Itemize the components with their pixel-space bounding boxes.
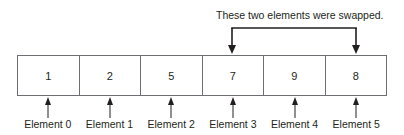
cell-value: 8 (353, 70, 359, 82)
array-cell-3: 7 (203, 56, 265, 95)
up-arrow-icon (351, 97, 361, 118)
array-cell-5: 8 (326, 56, 387, 95)
up-arrow-icon (228, 97, 238, 118)
up-arrow-icon (166, 97, 176, 118)
up-arrow-icon (290, 97, 300, 118)
element-label-text: Element 1 (79, 118, 141, 130)
array-cell-4: 9 (264, 56, 326, 95)
element-label-2: Element 2 (140, 97, 202, 135)
element-label-text: Element 4 (264, 118, 326, 130)
array-boxes: 1 2 5 7 9 8 (17, 55, 387, 96)
element-label-4: Element 4 (264, 97, 326, 135)
up-arrow-icon (43, 97, 53, 118)
array-cell-2: 5 (141, 56, 203, 95)
element-label-0: Element 0 (17, 97, 79, 135)
element-labels: Element 0 Element 1 Element 2 Element 3 … (17, 97, 387, 135)
cell-value: 9 (291, 70, 297, 82)
array-cell-1: 2 (80, 56, 142, 95)
up-arrow-icon (105, 97, 115, 118)
array-cell-0: 1 (18, 56, 80, 95)
element-label-text: Element 0 (17, 118, 79, 130)
cell-value: 1 (45, 70, 51, 82)
cell-value: 2 (107, 70, 113, 82)
swap-bracket-arrow-icon (0, 0, 404, 60)
element-label-text: Element 3 (202, 118, 264, 130)
element-label-text: Element 5 (325, 118, 387, 130)
element-label-text: Element 2 (140, 118, 202, 130)
element-label-1: Element 1 (79, 97, 141, 135)
cell-value: 7 (230, 70, 236, 82)
element-label-3: Element 3 (202, 97, 264, 135)
element-label-5: Element 5 (325, 97, 387, 135)
cell-value: 5 (168, 70, 174, 82)
